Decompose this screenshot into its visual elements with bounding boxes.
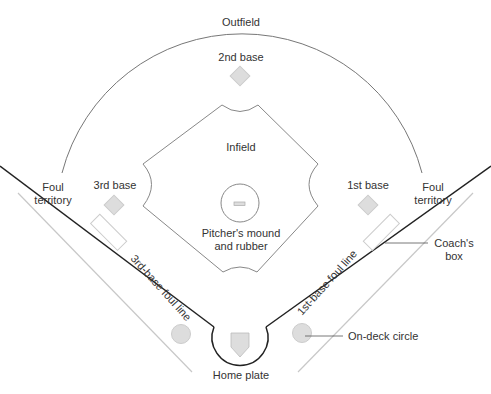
coach-box-label-line2: box: [432, 250, 476, 263]
right-foul-territory-line2: territory: [410, 194, 456, 207]
on-deck-circle-label: On-deck circle: [348, 330, 424, 343]
second-base: [230, 66, 250, 86]
outfield-label: Outfield: [214, 16, 268, 29]
first-base: [358, 195, 378, 215]
second-base-label: 2nd base: [214, 51, 268, 64]
first-base-foul-line-label: 1st-base foul line: [295, 247, 360, 317]
right-foul-territory-line1: Foul: [410, 181, 456, 194]
home-plate-label: Home plate: [210, 369, 272, 382]
third-base-foul-line-label: 3rd-base foul line: [129, 252, 194, 323]
third-base-label: 3rd base: [90, 179, 140, 192]
right-on-deck-circle: [293, 324, 312, 343]
first-base-label: 1st base: [345, 179, 391, 192]
pitchers-rubber: [234, 202, 245, 206]
infield-label: Infield: [221, 141, 261, 154]
coach-box-label-line1: Coach's: [432, 237, 476, 250]
left-foul-territory-line2: territory: [30, 194, 76, 207]
coach-box-label: Coach's box: [432, 237, 476, 263]
third-base: [104, 195, 124, 215]
pitchers-mound-label-line2: and rubber: [196, 240, 286, 253]
left-coach-box: [91, 214, 127, 250]
left-foul-territory-label: Foul territory: [30, 181, 76, 207]
left-on-deck-circle: [172, 325, 191, 344]
right-foul-territory-label: Foul territory: [410, 181, 456, 207]
pitchers-mound-label: Pitcher's mound and rubber: [196, 227, 286, 253]
home-plate: [231, 333, 249, 357]
left-foul-territory-line1: Foul: [30, 181, 76, 194]
pitchers-mound-label-line1: Pitcher's mound: [196, 227, 286, 240]
